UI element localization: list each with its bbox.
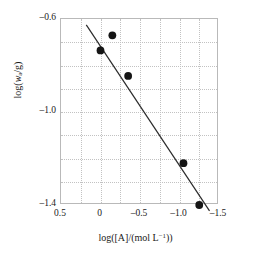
x-tick-label: –0.5 — [119, 209, 159, 219]
y-axis-title-text: log(wa/g) — [12, 62, 23, 99]
x-tick-label: 0.5 — [40, 209, 80, 219]
data-point — [124, 72, 132, 80]
data-layer — [61, 19, 219, 205]
plot-area — [60, 18, 218, 204]
y-tick-label: –1.0 — [39, 106, 56, 116]
y-axis-title: log(wa/g) — [7, 20, 21, 140]
x-tick-label: 0 — [80, 209, 120, 219]
fit-line — [86, 25, 209, 211]
x-axis-tick-labels: 0.50–0.5–1.0–1.5 — [0, 209, 271, 223]
chart-figure: –1.4–1.0–0.6 0.50–0.5–1.0–1.5 log([A]/(m… — [0, 0, 271, 261]
x-axis-title-text: log([A]/(mol L−1)) — [98, 232, 172, 243]
x-tick-label: –1.0 — [159, 209, 199, 219]
y-tick-label: –0.6 — [39, 13, 56, 23]
x-tick-label: –1.5 — [198, 209, 238, 219]
x-axis-title: log([A]/(mol L−1)) — [0, 232, 271, 243]
data-point — [180, 159, 188, 167]
data-point — [97, 46, 105, 54]
linear-fit-line — [86, 25, 209, 211]
data-point — [195, 201, 203, 209]
data-point — [108, 31, 116, 39]
